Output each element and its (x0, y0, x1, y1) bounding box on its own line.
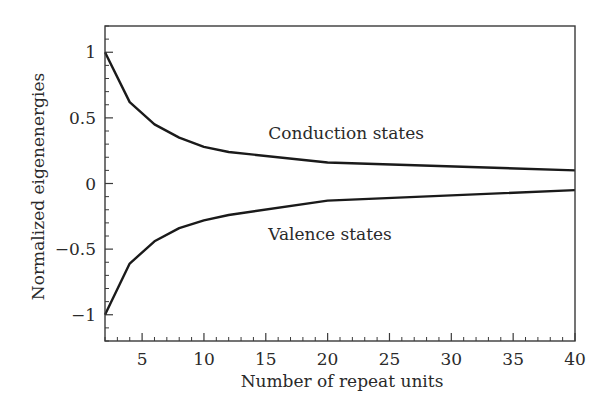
y-tick-label: 0 (85, 174, 96, 194)
major-ticks (105, 52, 575, 341)
x-tick-label: 20 (317, 349, 339, 369)
x-tick-label: 30 (440, 349, 462, 369)
chart-container: 510152025303540 −1−0.500.51 Conduction s… (0, 0, 610, 418)
plot-frame (105, 26, 575, 341)
series-annotations: Conduction statesValence states (267, 123, 424, 244)
conduction-states-line (105, 52, 575, 170)
eigenenergy-line-chart: 510152025303540 −1−0.500.51 Conduction s… (0, 0, 610, 418)
x-tick-label: 10 (193, 349, 215, 369)
y-axis-label: Normalized eigenenergies (28, 73, 48, 300)
x-tick-label: 35 (502, 349, 524, 369)
y-tick-label: 0.5 (69, 108, 96, 128)
y-tick-labels: −1−0.500.51 (55, 42, 96, 325)
x-tick-labels: 510152025303540 (137, 349, 586, 369)
valence-states-line (105, 190, 575, 315)
x-tick-label: 15 (255, 349, 277, 369)
series-layer (105, 52, 575, 315)
valence-states-annotation: Valence states (267, 224, 392, 244)
x-axis-label: Number of repeat units (241, 371, 444, 391)
y-tick-label: −0.5 (55, 239, 96, 259)
y-tick-label: 1 (85, 42, 96, 62)
y-tick-label: −1 (71, 305, 96, 325)
x-tick-label: 40 (564, 349, 586, 369)
conduction-states-annotation: Conduction states (268, 123, 424, 143)
minor-ticks (105, 26, 563, 341)
x-tick-label: 5 (137, 349, 148, 369)
x-tick-label: 25 (379, 349, 401, 369)
